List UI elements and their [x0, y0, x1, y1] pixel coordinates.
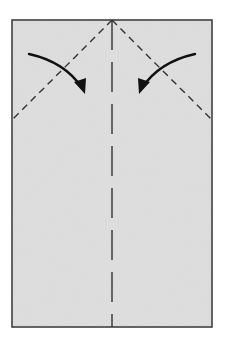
origami-diagram [0, 0, 225, 341]
